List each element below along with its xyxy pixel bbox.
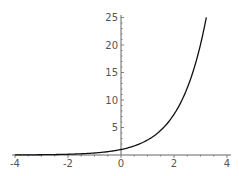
y-tick-label: 15 (105, 67, 118, 78)
x-tick-label: 2 (171, 158, 177, 169)
exponential-plot: -4-2024510152025 (0, 0, 239, 176)
x-tick-label: 0 (118, 158, 124, 169)
y-tick-label: 10 (105, 95, 118, 106)
axes (12, 15, 231, 155)
y-tick-label: 5 (112, 122, 118, 133)
y-tick-label: 25 (105, 12, 118, 23)
tick-labels: -4-2024510152025 (10, 12, 230, 169)
x-tick-label: -2 (63, 158, 73, 169)
y-tick-label: 20 (105, 40, 118, 51)
exp-curve (15, 17, 206, 155)
x-tick-label: 4 (224, 158, 230, 169)
x-tick-label: -4 (10, 158, 20, 169)
